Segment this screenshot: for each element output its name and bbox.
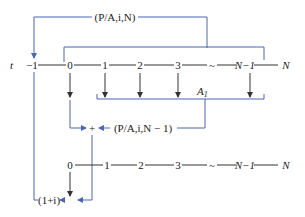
top-factor-bracket: (P/A,i,N) [34, 11, 207, 58]
compound-feed-line [34, 72, 38, 200]
annuity-bracket: A1 (P/A,i,N − 1) [97, 85, 264, 135]
timeline-bottom: 0 1 2 3 ~ N−1 N [67, 159, 290, 196]
tick-2: 2 [137, 59, 143, 71]
tick-0: 0 [67, 59, 73, 71]
tick-n: N [281, 59, 290, 71]
sum-node: + [70, 100, 95, 200]
bottom-tick-n-minus-1: N−1 [234, 159, 255, 171]
compound-factor-label: (1+i) [38, 194, 60, 207]
bottom-tick-0: 0 [67, 159, 73, 171]
annuity-label: A1 [196, 85, 208, 99]
bottom-tick-2: 2 [138, 159, 144, 171]
mid-factor-label: (P/A,i,N − 1) [114, 122, 172, 135]
top-factor-label: (P/A,i,N) [95, 11, 136, 24]
bottom-tick-3: 3 [175, 159, 181, 171]
bottom-tick-n: N [281, 159, 290, 171]
tick-1: 1 [102, 59, 108, 71]
t-label: t [10, 59, 14, 71]
cash-flow-diagram: (P/A,i,N) t −1 0 1 2 3 ~ N−1 N A1 (P/A,i… [0, 0, 305, 217]
cash-flow-arrows [70, 73, 250, 97]
tick-ellipsis: ~ [209, 59, 215, 71]
plus-symbol: + [89, 122, 95, 134]
bottom-tick-ellipsis: ~ [209, 159, 215, 171]
tick-n-minus-1: N−1 [234, 59, 255, 71]
bottom-tick-1: 1 [104, 159, 110, 171]
tick-3: 3 [175, 59, 181, 71]
tick-minus-1: −1 [26, 59, 38, 71]
timeline-top: t −1 0 1 2 3 ~ N−1 N [10, 59, 290, 71]
